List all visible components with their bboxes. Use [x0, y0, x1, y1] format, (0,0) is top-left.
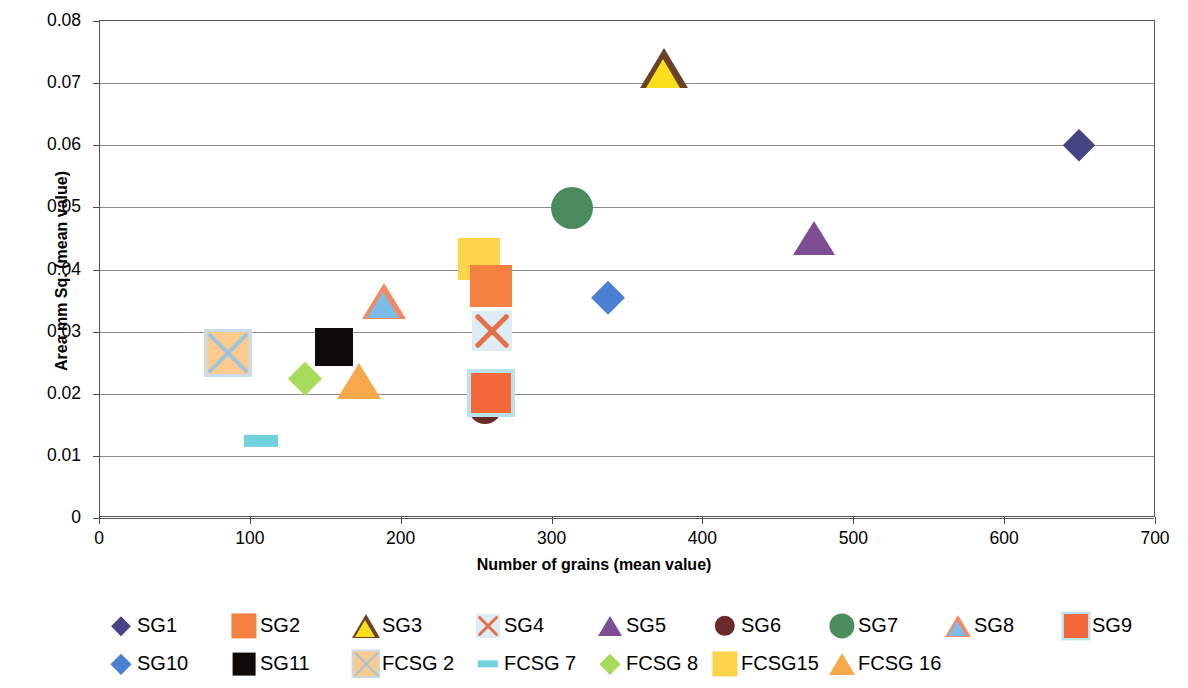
- legend-row: SG10SG11FCSG 2FCSG 7FCSG 8FCSG15FCSG 16: [0, 646, 1188, 680]
- legend-swatch-diamond-icon: [597, 650, 623, 676]
- legend-label: FCSG 16: [858, 653, 941, 673]
- legend-swatch-triangle-icon: [945, 612, 971, 638]
- data-point-sg8: [945, 615, 971, 637]
- y-axis-tick-label: 0.08: [47, 10, 81, 31]
- chart-root: Area mm Sq. (mean value) 00.010.020.030.…: [0, 0, 1188, 688]
- x-axis-tick-label: 200: [386, 528, 415, 549]
- legend-swatch-square-icon: [231, 650, 257, 676]
- x-axis-tick: [250, 517, 251, 524]
- legend-label: SG11: [260, 653, 310, 673]
- data-point-sg6: [715, 616, 735, 636]
- data-point-sg9: [1064, 614, 1088, 638]
- x-axis-tick: [552, 517, 553, 524]
- legend-swatch-circle-icon: [829, 612, 855, 638]
- triangle-fill: [367, 292, 399, 318]
- chart-legend: SG1SG2SG3SG4SG5SG6SG7SG8SG9 SG10SG11FCSG…: [0, 608, 1188, 684]
- x-axis-tick-label: 300: [537, 528, 566, 549]
- y-axis-tick-label: 0.04: [47, 258, 81, 279]
- y-axis-tick: [93, 332, 100, 333]
- data-point-sg4: [476, 614, 500, 638]
- legend-item-sg11[interactable]: SG11: [231, 646, 310, 680]
- data-point-sg1: [1063, 129, 1095, 161]
- x-axis-tick: [702, 517, 703, 524]
- data-point-fcsg-2: [207, 332, 249, 374]
- data-point-sg10: [591, 281, 625, 315]
- legend-item-fcsg-16[interactable]: FCSG 16: [829, 646, 941, 680]
- y-axis-tick: [93, 394, 100, 395]
- data-point-sg3: [640, 48, 688, 88]
- y-axis-tick-label: 0: [71, 507, 81, 528]
- gridline: [100, 332, 1154, 333]
- legend-label: FCSG 2: [382, 653, 454, 673]
- legend-swatch-diamond-icon: [108, 650, 134, 676]
- legend-item-sg6[interactable]: SG6: [712, 608, 781, 642]
- data-point-sg5: [793, 221, 835, 255]
- x-axis-title: Number of grains (mean value): [0, 556, 1188, 574]
- data-point-sg11: [315, 328, 353, 366]
- x-axis-tick-label: 100: [235, 528, 264, 549]
- y-axis-tick-label: 0.03: [47, 320, 81, 341]
- legend-swatch-x-icon: [475, 612, 501, 638]
- legend-row: SG1SG2SG3SG4SG5SG6SG7SG8SG9: [0, 608, 1188, 642]
- legend-swatch-square-icon: [231, 612, 257, 638]
- legend-swatch-square-icon: [1063, 612, 1089, 638]
- y-axis-tick-label: 0.01: [47, 444, 81, 465]
- plot-area: [99, 20, 1155, 517]
- data-point-fcsg-16: [829, 653, 855, 675]
- legend-item-fcsg-7[interactable]: FCSG 7: [475, 646, 576, 680]
- data-point-sg7: [829, 613, 854, 638]
- legend-item-sg10[interactable]: SG10: [108, 646, 188, 680]
- triangle-fill: [948, 621, 966, 636]
- x-axis-tick: [1155, 517, 1156, 524]
- x-axis-tick: [853, 517, 854, 524]
- data-point-sg11: [233, 653, 256, 676]
- gridline: [100, 456, 1154, 457]
- legend-label: SG5: [626, 615, 666, 635]
- legend-label: SG1: [137, 615, 177, 635]
- data-point-sg9: [471, 373, 511, 413]
- legend-item-sg2[interactable]: SG2: [231, 608, 300, 642]
- legend-swatch-square-x-icon: [353, 650, 379, 676]
- data-point-fcsg-8: [600, 654, 621, 675]
- data-point-fcsg-8: [288, 362, 322, 396]
- y-axis-tick-label: 0.07: [47, 72, 81, 93]
- legend-label: SG9: [1092, 615, 1132, 635]
- legend-item-sg4[interactable]: SG4: [475, 608, 544, 642]
- data-point-sg1: [111, 616, 130, 635]
- y-axis-tick-labels: 00.010.020.030.040.050.060.070.08: [0, 20, 99, 517]
- legend-item-fcsg-2[interactable]: FCSG 2: [353, 646, 454, 680]
- legend-label: FCSG 8: [626, 653, 698, 673]
- legend-swatch-triangle-icon: [353, 612, 379, 638]
- gridline: [100, 83, 1154, 84]
- data-point-sg2: [231, 613, 256, 638]
- legend-label: SG8: [974, 615, 1014, 635]
- legend-item-sg9[interactable]: SG9: [1063, 608, 1132, 642]
- legend-label: SG3: [382, 615, 422, 635]
- legend-item-sg1[interactable]: SG1: [108, 608, 177, 642]
- legend-item-fcsg15[interactable]: FCSG15: [712, 646, 819, 680]
- data-point-sg10: [111, 654, 132, 675]
- x-axis-tick-labels: 0100200300400500600700: [99, 517, 1155, 557]
- y-axis-tick: [93, 83, 100, 84]
- y-axis-tick: [93, 456, 100, 457]
- x-axis-tick: [1004, 517, 1005, 524]
- data-point-sg4: [472, 311, 512, 351]
- y-axis-tick-label: 0.05: [47, 196, 81, 217]
- data-point-fcsg15: [712, 651, 737, 676]
- gridline: [100, 207, 1154, 208]
- legend-item-fcsg-8[interactable]: FCSG 8: [597, 646, 698, 680]
- legend-item-sg8[interactable]: SG8: [945, 608, 1014, 642]
- legend-label: SG6: [741, 615, 781, 635]
- data-point-fcsg-16: [337, 363, 381, 399]
- legend-item-sg5[interactable]: SG5: [597, 608, 666, 642]
- legend-item-sg7[interactable]: SG7: [829, 608, 898, 642]
- y-axis-tick: [93, 21, 100, 22]
- legend-swatch-triangle-icon: [829, 650, 855, 676]
- legend-label: SG10: [137, 653, 188, 673]
- legend-item-sg3[interactable]: SG3: [353, 608, 422, 642]
- data-point-sg2: [470, 265, 512, 307]
- x-axis-tick-label: 700: [1140, 528, 1169, 549]
- x-axis-tick: [401, 517, 402, 524]
- y-axis-tick-label: 0.06: [47, 134, 81, 155]
- gridline: [100, 394, 1154, 395]
